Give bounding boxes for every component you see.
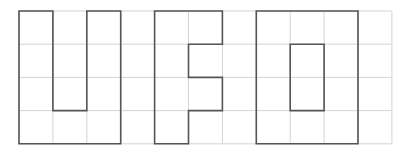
ufo-grid-diagram [0, 0, 406, 155]
